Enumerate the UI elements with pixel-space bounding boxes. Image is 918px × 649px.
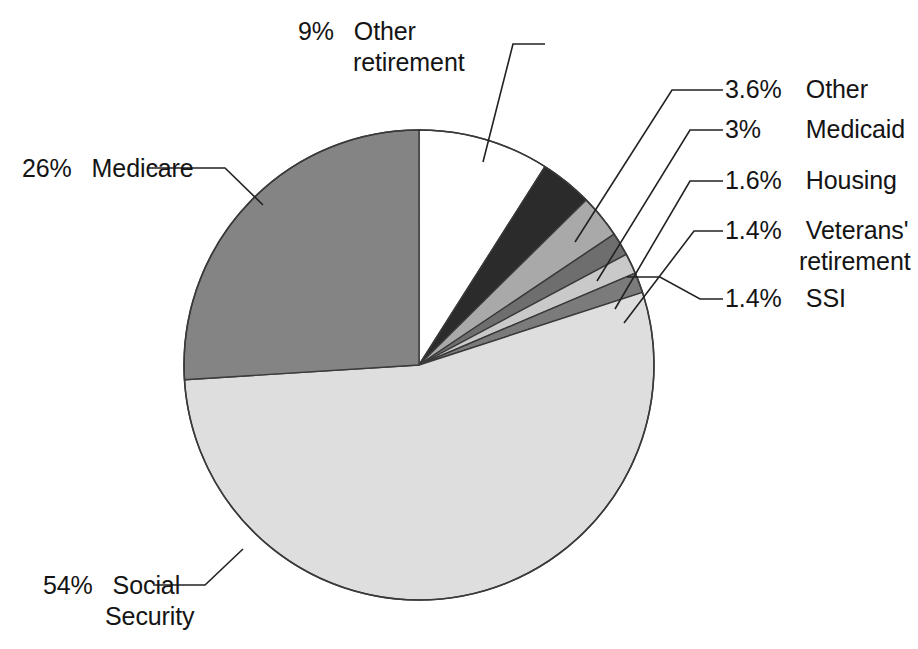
callout-veterans-name2: retirement [799, 246, 911, 277]
callout-veterans: 1.4% Veterans' retirement [725, 215, 911, 277]
callout-other-name: Other [806, 74, 868, 105]
callout-veterans-pct: 1.4% [725, 215, 787, 246]
callout-housing: 1.6% Housing [725, 165, 897, 196]
callout-housing-name: Housing [806, 165, 897, 196]
callout-medicare: 26% Medicare [22, 153, 194, 184]
callout-medicaid-pct: 3% [725, 114, 787, 145]
callout-other-retirement-name2: retirement [353, 47, 465, 78]
callout-ssi-name: SSI [806, 283, 846, 314]
callout-social-security-name: Social [113, 570, 181, 601]
callout-ssi: 1.4% SSI [725, 283, 846, 314]
callout-ssi-pct: 1.4% [725, 283, 787, 314]
pie-slices-group [184, 130, 654, 600]
callout-social-security-name2: Security [105, 601, 195, 632]
callout-other-retirement: 9% Other retirement [298, 16, 465, 78]
callout-housing-pct: 1.6% [725, 165, 787, 196]
callout-social-security-pct: 54% [43, 570, 93, 601]
callout-veterans-name: Veterans' [806, 215, 909, 246]
callout-other-retirement-pct: 9% [298, 16, 334, 47]
callout-medicare-name: Medicare [92, 153, 194, 184]
callout-medicaid-name: Medicaid [806, 114, 905, 145]
callout-other: 3.6% Other [725, 74, 868, 105]
callout-other-pct: 3.6% [725, 74, 787, 105]
callout-medicare-pct: 26% [22, 153, 72, 184]
callout-medicaid: 3% Medicaid [725, 114, 905, 145]
pie-chart-figure: 9% Other retirement 3.6% Other 3% Medica… [0, 0, 918, 649]
callout-other-retirement-name: Other [354, 16, 416, 47]
callout-social-security: 54% Social Security [43, 570, 195, 632]
